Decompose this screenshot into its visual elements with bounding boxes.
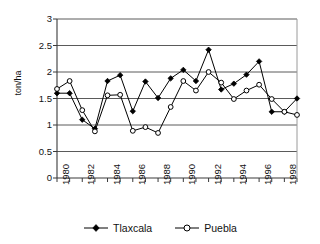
- series-markers: [54, 47, 299, 135]
- y-tick-label: 2.5: [39, 41, 52, 50]
- legend-item-puebla: Puebla: [174, 222, 237, 234]
- x-tick-label: 1990: [187, 164, 196, 185]
- y-tick-label: 0.5: [39, 147, 52, 156]
- legend-item-tlaxcala: Tlaxcala: [83, 222, 152, 234]
- y-axis-tick-labels: 00.511.522.53: [26, 0, 52, 244]
- data-point-tlaxcala: [168, 76, 173, 81]
- data-point-puebla: [143, 125, 148, 130]
- x-tick-label: 1998: [288, 164, 297, 185]
- x-tick-label: 1988: [162, 164, 171, 185]
- data-point-puebla: [168, 105, 173, 110]
- legend-marker-open-circle-icon: [174, 223, 200, 233]
- data-point-puebla: [67, 79, 72, 84]
- data-point-puebla: [80, 108, 85, 113]
- series-line-puebla: [57, 72, 297, 133]
- data-point-puebla: [55, 87, 60, 92]
- legend-marker-filled-diamond-icon: [83, 223, 109, 233]
- y-axis-tick-marks: [53, 19, 57, 178]
- data-point-puebla: [219, 80, 224, 85]
- data-point-puebla: [206, 70, 211, 75]
- y-tick-label: 1: [47, 120, 52, 129]
- x-tick-label: 1996: [263, 164, 272, 185]
- data-point-puebla: [118, 92, 123, 97]
- data-point-puebla: [105, 93, 110, 98]
- chart-figure: ton/ha 00.511.522.53 1980198219841986198…: [0, 0, 320, 244]
- y-tick-label: 2: [47, 67, 52, 76]
- data-point-puebla: [92, 129, 97, 134]
- data-point-puebla: [156, 131, 161, 136]
- data-point-puebla: [181, 79, 186, 84]
- data-point-puebla: [282, 109, 287, 114]
- x-tick-label: 1984: [112, 164, 121, 185]
- data-point-tlaxcala: [269, 109, 274, 114]
- y-axis-title: ton/ha: [13, 53, 23, 113]
- x-tick-label: 1992: [213, 164, 222, 185]
- data-point-puebla: [257, 82, 262, 87]
- data-point-tlaxcala: [117, 72, 122, 77]
- data-point-tlaxcala: [67, 91, 72, 96]
- data-point-puebla: [231, 97, 236, 102]
- data-point-puebla: [244, 88, 249, 93]
- y-tick-label: 0: [47, 173, 52, 182]
- y-tick-label: 1.5: [39, 94, 52, 103]
- x-tick-label: 1980: [61, 164, 70, 185]
- legend-label-puebla: Puebla: [204, 222, 237, 234]
- data-point-tlaxcala: [219, 87, 224, 92]
- data-point-tlaxcala: [130, 109, 135, 114]
- legend-label-tlaxcala: Tlaxcala: [113, 222, 152, 234]
- x-tick-label: 1994: [238, 164, 247, 185]
- x-tick-label: 1986: [137, 164, 146, 185]
- x-tick-label: 1982: [86, 164, 95, 185]
- chart-legend: Tlaxcala Puebla: [0, 222, 320, 234]
- y-tick-label: 3: [47, 14, 52, 23]
- data-point-tlaxcala: [206, 47, 211, 52]
- data-point-puebla: [295, 113, 300, 118]
- data-point-puebla: [130, 128, 135, 133]
- data-point-puebla: [194, 88, 199, 93]
- data-point-puebla: [269, 97, 274, 102]
- data-point-tlaxcala: [105, 78, 110, 83]
